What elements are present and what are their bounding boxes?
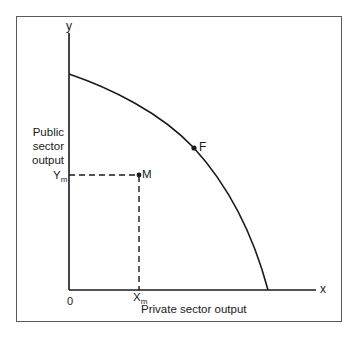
ppf-diagram: y x 0 Public sector output Private secto…	[0, 0, 360, 341]
point-f-marker	[191, 145, 196, 150]
y-axis-title-line-1: Public	[33, 126, 65, 138]
point-m-label: M	[142, 168, 152, 180]
ym-tick-label: Ym	[53, 169, 68, 184]
origin-label: 0	[67, 295, 73, 307]
xm-tick-label: Xm	[133, 291, 148, 306]
point-m-marker	[137, 173, 142, 178]
ppf-curve	[69, 74, 268, 290]
point-f-label: F	[199, 140, 206, 154]
y-axis-title-line-2: sector	[33, 140, 64, 152]
y-axis-label: y	[66, 19, 72, 33]
xm-subscript: m	[141, 297, 148, 306]
x-axis-title: Private sector output	[141, 303, 247, 315]
x-axis-label: x	[320, 282, 326, 296]
ym-subscript: m	[61, 175, 68, 184]
y-axis-title-line-3: output	[32, 154, 65, 166]
figure-frame	[17, 17, 342, 322]
